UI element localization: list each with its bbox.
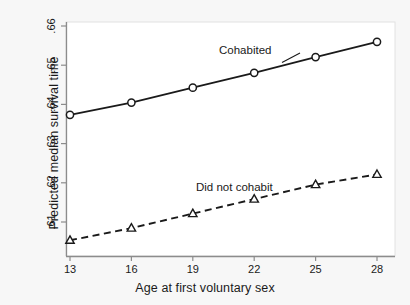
x-tick-label-19: 19	[187, 263, 199, 275]
plot-panel	[66, 22, 395, 256]
x-tick-label-16: 16	[125, 263, 137, 275]
data-point	[189, 84, 196, 91]
data-point	[251, 69, 258, 76]
chart-figure: .66 .65 .64 .63 .62 .61 13 16 19 22 25 2…	[0, 0, 410, 305]
x-tick-label-28: 28	[371, 263, 383, 275]
y-axis-title: Predicted median survival time	[47, 56, 61, 229]
data-point	[312, 54, 319, 61]
y-axis-title-container: Predicted median survival time	[44, 0, 62, 288]
x-tick-label-25: 25	[309, 263, 321, 275]
series-label-cohabited: Cohabited	[219, 44, 271, 56]
data-point	[66, 111, 73, 118]
data-point	[373, 38, 380, 45]
chart-screenshot: .66 .65 .64 .63 .62 .61 13 16 19 22 25 2…	[0, 0, 410, 305]
data-point	[128, 99, 135, 106]
series-label-did-not-cohabit: Did not cohabit	[196, 181, 273, 193]
x-tick-label-13: 13	[64, 263, 76, 275]
x-tick-label-22: 22	[248, 263, 260, 275]
